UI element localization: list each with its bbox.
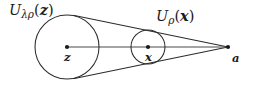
figure-container: Uλρ(z) Uρ(x) z x a — [0, 0, 258, 87]
outer-set-label-argument: z — [40, 1, 48, 18]
point-x-marker — [146, 45, 150, 49]
point-x-label: x — [145, 52, 152, 64]
outer-set-label: Uλρ(z) — [9, 3, 54, 19]
inner-set-label-paren-close: ) — [189, 8, 195, 24]
outer-set-label-paren-close: ) — [48, 2, 54, 18]
upper-tangent-line — [74, 15, 228, 47]
inner-set-label-argument: x — [180, 7, 189, 24]
outer-set-label-base: U — [9, 2, 21, 18]
point-a-marker — [226, 45, 230, 49]
inner-set-label-base: U — [156, 8, 168, 24]
point-a-label: a — [232, 53, 239, 65]
point-z-marker — [65, 45, 69, 49]
point-z-label: z — [64, 52, 71, 64]
inner-set-label: Uρ(x) — [156, 9, 194, 25]
outer-set-label-subscript: λρ — [21, 8, 34, 20]
